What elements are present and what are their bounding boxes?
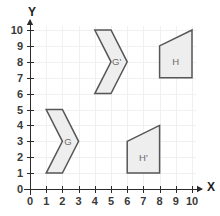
y-tick-label: 9	[17, 40, 23, 52]
y-tick-label: 0	[17, 183, 23, 195]
y-tick-label: 8	[17, 56, 23, 68]
y-tick-label: 7	[17, 72, 23, 84]
shape-label-h: H	[172, 56, 179, 67]
shape-label-g: G	[64, 136, 71, 147]
y-tick-label: 2	[17, 151, 23, 163]
y-axis-label: Y	[28, 5, 36, 19]
x-tick-label: 8	[157, 195, 163, 207]
y-tick-label: 10	[11, 24, 23, 36]
y-tick-label: 6	[17, 88, 23, 100]
plotted-shapes	[46, 30, 192, 173]
x-tick-label: 9	[173, 195, 179, 207]
shape-h-prime	[127, 125, 159, 173]
shape-label-h-prime: H'	[139, 152, 148, 163]
x-tick-label: 7	[140, 195, 146, 207]
shape-label-g-prime: G'	[112, 56, 121, 67]
x-tick-label: 1	[43, 195, 49, 207]
x-axis-arrowhead	[197, 186, 203, 192]
shape-h	[160, 30, 192, 78]
x-tick-label: 3	[76, 195, 82, 207]
x-tick-label: 6	[124, 195, 130, 207]
y-axis-arrowhead	[27, 19, 33, 25]
coordinate-plane-figure: 012345678910012345678910 GG'HH' X Y	[0, 0, 220, 216]
y-tick-label: 3	[17, 135, 23, 147]
y-tick-label: 4	[17, 119, 24, 131]
shape-g-prime	[95, 30, 127, 94]
x-axis-label: X	[207, 180, 215, 194]
x-tick-label: 0	[27, 195, 33, 207]
x-tick-label: 10	[186, 195, 198, 207]
x-tick-label: 4	[92, 195, 99, 207]
x-tick-label: 5	[108, 195, 114, 207]
y-tick-label: 5	[17, 104, 23, 116]
x-tick-label: 2	[59, 195, 65, 207]
y-tick-label: 1	[17, 167, 23, 179]
coordinate-plane-svg: 012345678910012345678910 GG'HH' X Y	[0, 0, 220, 216]
